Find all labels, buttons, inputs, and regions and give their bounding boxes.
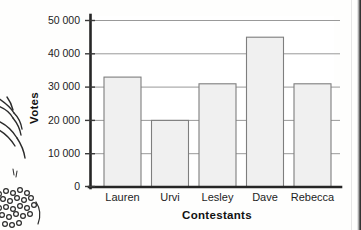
scanned-page: 50 000 40 000 30 000 20 000 10 000 0 Vot… <box>0 0 361 230</box>
y-tick-label: 40 000 <box>48 47 80 59</box>
y-tick-label: 50 000 <box>48 14 80 26</box>
x-axis-title: Contestants <box>182 209 252 221</box>
x-tick-label-dave: Dave <box>252 191 278 203</box>
y-tick-label: 0 <box>74 180 80 192</box>
y-tick-label: 20 000 <box>48 114 80 126</box>
bar-urvi[interactable] <box>152 120 189 187</box>
bar-lesley[interactable] <box>199 84 236 187</box>
x-tick-label-lesley: Lesley <box>202 191 234 203</box>
bar-rebecca[interactable] <box>294 84 331 187</box>
y-tick-label: 10 000 <box>48 147 80 159</box>
votes-bar-chart: 50 000 40 000 30 000 20 000 10 000 0 Vot… <box>0 0 361 230</box>
x-tick-label-lauren: Lauren <box>105 191 139 203</box>
y-tick-labels: 50 000 40 000 30 000 20 000 10 000 0 <box>48 14 80 192</box>
page-edge-hairline <box>351 0 352 230</box>
x-tick-label-urvi: Urvi <box>160 191 180 203</box>
y-axis-title: Votes <box>28 92 40 124</box>
bar-dave[interactable] <box>247 37 284 187</box>
x-tick-labels: Lauren Urvi Lesley Dave Rebecca <box>105 191 335 203</box>
y-tick-label: 30 000 <box>48 80 80 92</box>
page-edge-shadow <box>357 0 361 230</box>
bar-lauren[interactable] <box>104 77 141 187</box>
x-tick-label-rebecca: Rebecca <box>291 191 335 203</box>
